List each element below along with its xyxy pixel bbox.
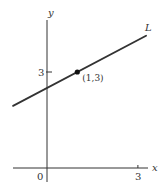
- line-chart: 33 L (1,3) x y 0: [0, 0, 166, 186]
- x-axis-label: x: [152, 162, 158, 173]
- x-tick-label: 3: [135, 171, 141, 182]
- axes: [13, 20, 148, 182]
- y-tick-label: 3: [38, 67, 44, 78]
- data-point-label: (1,3): [82, 73, 103, 83]
- line-label: L: [144, 22, 152, 33]
- series: L: [13, 22, 152, 106]
- y-axis-label: y: [47, 7, 54, 18]
- points: (1,3): [75, 69, 104, 83]
- origin-label: 0: [37, 171, 43, 182]
- data-point: [75, 69, 80, 74]
